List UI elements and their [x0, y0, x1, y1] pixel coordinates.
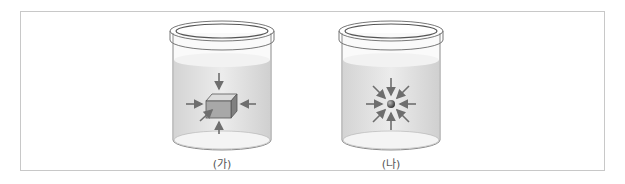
beaker-diagrams: (가) (나) [0, 0, 625, 184]
label-na: (나) [382, 158, 401, 171]
beaker-ga [170, 21, 274, 150]
beaker-na [339, 21, 443, 150]
label-ga: (가) [213, 158, 232, 171]
sphere-icon [387, 100, 395, 108]
cube-icon [206, 94, 237, 118]
